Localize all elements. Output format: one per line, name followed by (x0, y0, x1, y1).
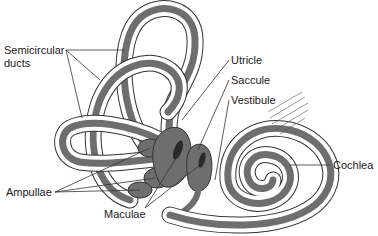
label-semicircular-ducts-line1: Semicircular (4, 44, 65, 56)
label-vestibule: Vestibule (231, 94, 276, 106)
label-utricle: Utricle (231, 54, 262, 66)
label-ampullae: Ampullae (6, 186, 52, 198)
label-cochlea: Cochlea (333, 159, 373, 171)
label-saccule: Saccule (231, 74, 270, 86)
inner-ear-diagram (0, 0, 378, 236)
utricle (153, 127, 192, 187)
label-maculae: Maculae (104, 208, 146, 220)
label-semicircular-ducts-line2: ducts (4, 57, 30, 69)
saccule (187, 144, 212, 191)
